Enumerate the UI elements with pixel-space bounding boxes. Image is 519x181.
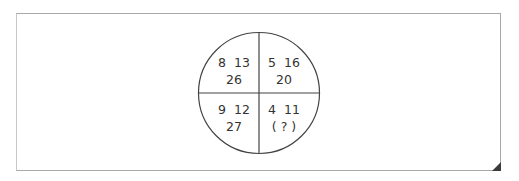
quadrant-bottom-left-top-numbers: 9 12 xyxy=(218,102,250,117)
quadrant-top-left-top-numbers: 8 13 xyxy=(218,55,250,70)
quadrant-top-right-bottom-number: 20 xyxy=(276,72,292,87)
quadrant-bottom-right-top-numbers: 4 11 xyxy=(268,102,300,117)
quadrant-top-left-bottom-number: 26 xyxy=(226,72,242,87)
quadrant-bottom-left-bottom-number: 27 xyxy=(226,119,242,134)
quadrant-top-right-top-numbers: 5 16 xyxy=(268,55,300,70)
quadrant-bottom-right-unknown: ( ? ) xyxy=(272,119,296,134)
number-circle-puzzle: 8 13 26 5 16 20 9 12 27 4 11 ( ? ) xyxy=(0,0,519,181)
